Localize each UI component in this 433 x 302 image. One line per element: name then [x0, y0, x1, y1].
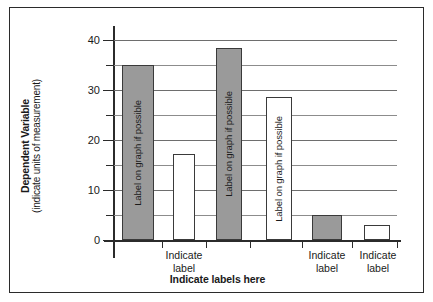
y-tick-label-10: 10 [88, 185, 100, 196]
x-tick-1 [162, 241, 163, 248]
bar-5[interactable] [312, 215, 342, 240]
x-category-label-2-line1: Indicate [158, 249, 210, 262]
gridline-30 [114, 90, 397, 91]
plot-area: 40 30 20 10 0 Label on graph if possible… [114, 40, 397, 240]
y-tick-30 [103, 90, 114, 91]
bar-1[interactable]: Label on graph if possible [122, 65, 154, 240]
bar-4-inner-label: Label on graph if possible [274, 116, 284, 222]
gridline-15 [114, 165, 397, 166]
y-tick-label-30: 30 [88, 85, 100, 96]
gridline-40 [114, 40, 397, 41]
bar-1-inner-label: Label on graph if possible [133, 100, 143, 206]
chart-frame: Dependent Variable (indicate units of me… [9, 7, 424, 293]
gridline-10 [114, 190, 397, 191]
y-tick-label-0: 0 [94, 235, 100, 246]
gridline-20 [114, 140, 397, 141]
gridline-25 [114, 115, 397, 116]
x-axis-line [104, 240, 401, 242]
y-tick-5 [106, 215, 114, 216]
x-tick-2 [206, 241, 207, 248]
gridline-35 [114, 65, 397, 66]
y-tick-40 [103, 40, 114, 41]
bar-2[interactable] [173, 154, 195, 240]
y-tick-25 [106, 115, 114, 116]
bar-3[interactable]: Label on graph if possible [216, 48, 242, 240]
bar-3-inner-label: Label on graph if possible [224, 91, 234, 197]
y-axis-title-secondary: (indicate units of measurement) [31, 79, 43, 213]
x-tick-4 [302, 241, 303, 248]
y-tick-35 [106, 65, 114, 66]
y-axis-title: Dependent Variable (indicate units of me… [11, 41, 51, 251]
y-tick-10 [103, 190, 114, 191]
x-tick-6 [397, 241, 398, 248]
gridline-5 [114, 215, 397, 216]
y-axis-title-primary: Dependent Variable [19, 99, 31, 193]
y-tick-label-40: 40 [88, 35, 100, 46]
x-category-label-5: Indicate label [301, 249, 353, 274]
y-tick-15 [106, 165, 114, 166]
y-tick-20 [103, 140, 114, 141]
y-tick-0 [103, 240, 114, 241]
x-axis-title: Indicate labels here [10, 273, 425, 285]
x-category-label-2: Indicate label [158, 249, 210, 274]
x-category-label-6-line1: Indicate [352, 249, 404, 262]
x-category-label-6: Indicate label [352, 249, 404, 274]
bar-4[interactable]: Label on graph if possible [266, 97, 292, 240]
x-tick-5 [352, 241, 353, 248]
y-axis-line [113, 26, 115, 258]
x-category-label-5-line1: Indicate [301, 249, 353, 262]
x-tick-3 [250, 241, 251, 248]
y-tick-label-20: 20 [88, 135, 100, 146]
bar-6[interactable] [364, 225, 390, 240]
